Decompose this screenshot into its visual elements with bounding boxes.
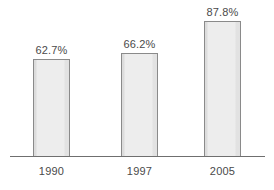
x-tick-label-1997: 1997	[107, 165, 172, 177]
bar-chart: 62.7% 66.2% 87.8% 1990 1997 2005	[0, 0, 274, 190]
bar-value-label-1997: 66.2%	[107, 38, 172, 50]
bar-group-1997: 66.2%	[121, 0, 158, 157]
x-axis-labels: 1990 1997 2005	[0, 165, 274, 185]
x-tick-label-1990: 1990	[19, 165, 84, 177]
bar-group-2005: 87.8%	[204, 0, 241, 157]
bar-1997	[121, 53, 158, 157]
bar-1990	[33, 59, 70, 157]
bar-group-1990: 62.7%	[33, 0, 70, 157]
bar-2005	[204, 21, 241, 157]
x-tick-label-2005: 2005	[190, 165, 255, 177]
bar-value-label-2005: 87.8%	[190, 6, 255, 18]
x-axis-line	[10, 156, 265, 157]
bar-value-label-1990: 62.7%	[19, 44, 84, 56]
plot-area: 62.7% 66.2% 87.8%	[0, 0, 274, 157]
